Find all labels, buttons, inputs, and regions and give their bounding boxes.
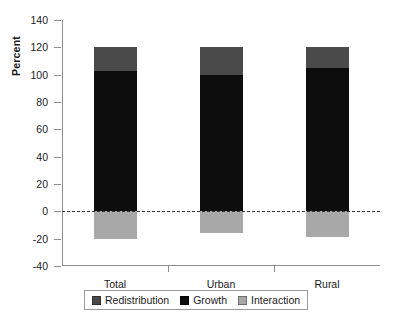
legend-item-redistribution: Redistribution: [92, 294, 169, 306]
segment-redistribution: [306, 47, 349, 68]
y-tick: [54, 184, 61, 185]
x-tick-label: Rural: [282, 278, 372, 290]
y-tick: [54, 75, 61, 76]
x-tick: [168, 266, 169, 272]
x-tick-label: Total: [70, 278, 160, 290]
y-tick-label: -20: [2, 234, 48, 244]
y-tick: [54, 266, 61, 267]
y-tick: [54, 20, 61, 21]
y-tick-label: 100: [2, 70, 48, 80]
segment-growth: [306, 68, 349, 212]
legend-item-growth: Growth: [180, 294, 227, 306]
y-axis-title: Percent: [10, 16, 24, 96]
legend-label: Redistribution: [105, 294, 169, 306]
segment-interaction: [94, 211, 137, 238]
legend-swatch-interaction: [238, 296, 247, 305]
y-tick: [54, 239, 61, 240]
legend-swatch-redistribution: [92, 296, 101, 305]
y-tick-label: 80: [2, 97, 48, 107]
y-tick-label: 20: [2, 179, 48, 189]
legend-label: Growth: [193, 294, 227, 306]
segment-redistribution: [94, 47, 137, 70]
zero-reference-line: [62, 211, 380, 212]
bar-rural: [306, 20, 349, 266]
y-tick-label: 40: [2, 152, 48, 162]
y-tick-label: 120: [2, 42, 48, 52]
y-axis-line: [62, 20, 63, 266]
y-tick: [54, 102, 61, 103]
y-tick: [54, 157, 61, 158]
y-tick: [54, 211, 61, 212]
segment-growth: [200, 75, 243, 212]
legend-swatch-growth: [180, 296, 189, 305]
segment-interaction: [200, 211, 243, 233]
segment-redistribution: [200, 47, 243, 74]
segment-growth: [94, 71, 137, 212]
bar-total: [94, 20, 137, 266]
x-tick: [274, 266, 275, 272]
legend-item-interaction: Interaction: [238, 294, 300, 306]
y-tick-label: -40: [2, 261, 48, 271]
y-tick: [54, 47, 61, 48]
y-tick: [54, 129, 61, 130]
chart-container: Percent 140120100806040200-20-40 TotalUr…: [0, 0, 400, 323]
plot-area: 140120100806040200-20-40 TotalUrbanRural: [62, 20, 380, 266]
segment-interaction: [306, 211, 349, 237]
legend-label: Interaction: [251, 294, 300, 306]
x-tick-label: Urban: [176, 278, 266, 290]
y-tick-label: 60: [2, 124, 48, 134]
y-tick-label: 0: [2, 206, 48, 216]
bar-urban: [200, 20, 243, 266]
chart-legend: RedistributionGrowthInteraction: [84, 290, 308, 310]
y-tick-label: 140: [2, 15, 48, 25]
